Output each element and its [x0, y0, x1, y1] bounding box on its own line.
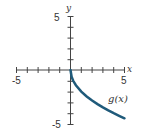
x-min-label: -5 [12, 75, 21, 86]
curve-label: g(x) [108, 93, 128, 104]
y-min-label: -5 [52, 119, 61, 130]
y-max-label: 5 [54, 12, 60, 23]
function-graph: y x 5 -5 -5 5 g(x) [0, 0, 142, 134]
x-max-label: 5 [121, 75, 127, 86]
y-axis-label: y [65, 3, 72, 13]
x-axis-label: x [127, 64, 132, 74]
